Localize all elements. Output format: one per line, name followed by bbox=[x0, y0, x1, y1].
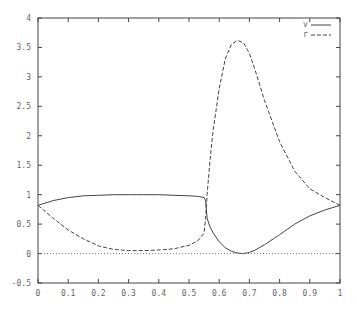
x-tick-label: 0.8 bbox=[272, 289, 287, 298]
plot-frame bbox=[38, 18, 340, 283]
y-tick-label: -0.5 bbox=[12, 279, 31, 288]
y-tick-label: 3.5 bbox=[17, 43, 32, 52]
y-tick-label: 0 bbox=[26, 250, 31, 259]
y-tick-label: 2 bbox=[26, 132, 31, 141]
x-tick-label: 0 bbox=[36, 289, 41, 298]
x-tick-label: 0.6 bbox=[212, 289, 227, 298]
x-tick-label: 0.4 bbox=[152, 289, 167, 298]
line-chart: 00.10.20.30.40.50.60.70.80.91-0.500.511.… bbox=[0, 0, 357, 310]
y-tick-label: 1.5 bbox=[17, 161, 32, 170]
axis-tick-labels: 00.10.20.30.40.50.60.70.80.91-0.500.511.… bbox=[12, 14, 343, 298]
y-tick-label: 4 bbox=[26, 14, 31, 23]
legend-label-r: r bbox=[303, 30, 308, 39]
plot-series bbox=[38, 40, 340, 253]
x-tick-label: 0.5 bbox=[182, 289, 197, 298]
y-tick-label: 2.5 bbox=[17, 102, 32, 111]
legend-label-v: v bbox=[303, 20, 308, 29]
axis-ticks bbox=[38, 18, 340, 283]
series-r-line bbox=[38, 40, 340, 250]
x-tick-label: 0.3 bbox=[121, 289, 136, 298]
y-tick-label: 3 bbox=[26, 73, 31, 82]
x-tick-label: 1 bbox=[338, 289, 343, 298]
x-tick-label: 0.1 bbox=[61, 289, 76, 298]
x-tick-label: 0.7 bbox=[242, 289, 257, 298]
legend: v r bbox=[303, 20, 331, 39]
x-tick-label: 0.2 bbox=[91, 289, 106, 298]
y-tick-label: 0.5 bbox=[17, 220, 32, 229]
x-tick-label: 0.9 bbox=[303, 289, 318, 298]
y-tick-label: 1 bbox=[26, 191, 31, 200]
